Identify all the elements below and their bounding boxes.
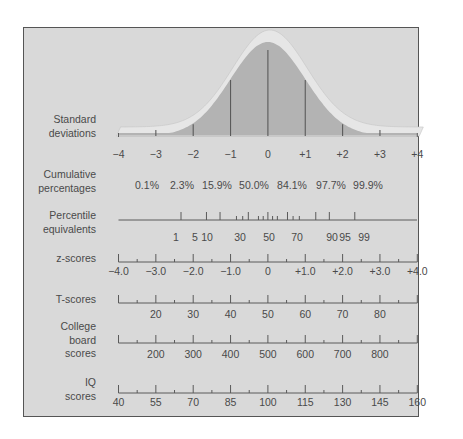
cumulative-value: 15.9%: [202, 179, 232, 191]
percentile-label: 50: [263, 231, 275, 243]
cumulative-value: 99.9%: [353, 179, 383, 191]
percentile-label: 5: [192, 231, 198, 243]
college-board-scores-tick-label: 700: [334, 348, 352, 360]
z-scores-label: z-scores: [56, 252, 96, 264]
t-scores-tick-label: 80: [374, 308, 386, 320]
t-scores-tick-label: 40: [225, 308, 237, 320]
cumulative-value: 50.0%: [239, 179, 269, 191]
college-board-scores-tick-label: 400: [222, 348, 240, 360]
iq-scores-tick-label: 40: [113, 396, 125, 408]
percentile-label: 1: [173, 231, 179, 243]
college-board-scores-label: Collegeboardscores: [60, 320, 96, 359]
college-board-scores-label-line: College: [60, 320, 96, 332]
t-scores-tick-label: 30: [187, 308, 199, 320]
t-scores-tick-label: 70: [337, 308, 349, 320]
percentile-label: 95: [339, 231, 351, 243]
cumulative-percentages-label: Cumulativepercentages: [38, 168, 96, 194]
sd-tick-label: +3: [374, 148, 386, 160]
iq-scores-label: IQscores: [65, 376, 96, 402]
t-scores-label-line: T-scores: [56, 293, 96, 305]
college-board-scores-label-line: board: [69, 334, 96, 346]
cumulative-value: 2.3%: [170, 179, 194, 191]
percentile-equivalents-label: Percentileequivalents: [43, 209, 96, 235]
t-scores-label: T-scores: [56, 293, 96, 305]
college-board-scores-tick-label: 500: [259, 348, 277, 360]
z-scores-tick-label: −3.0: [145, 265, 166, 277]
t-scores-tick-label: 60: [299, 308, 311, 320]
sd-tick-label: −2: [187, 148, 199, 160]
z-scores-tick-label: −4.0: [108, 265, 129, 277]
z-scores-tick-label: −1.0: [220, 265, 241, 277]
sd-tick-label: −1: [225, 148, 237, 160]
percentile-label: 99: [358, 231, 370, 243]
iq-scores-tick-label: 130: [334, 396, 352, 408]
percentile-equivalents-label-line: equivalents: [43, 223, 96, 235]
z-scores-tick-label: +3.0: [370, 265, 391, 277]
t-scores-tick-label: 20: [150, 308, 162, 320]
college-board-scores-tick-label: 600: [296, 348, 314, 360]
iq-scores-tick-label: 55: [150, 396, 162, 408]
iq-scores-tick-label: 115: [297, 396, 314, 408]
college-board-scores-tick-label: 300: [184, 348, 202, 360]
percentile-label: 10: [201, 231, 213, 243]
percentile-label: 90: [326, 231, 338, 243]
college-board-scores-tick-label: 800: [371, 348, 389, 360]
cumulative-value: 97.7%: [316, 179, 346, 191]
t-scores-tick-label: 50: [262, 308, 274, 320]
iq-scores-label-line: scores: [65, 390, 96, 402]
iq-scores-tick-label: 160: [409, 396, 427, 408]
iq-scores-tick-label: 100: [259, 396, 277, 408]
z-scores-tick-label: 0: [265, 265, 271, 277]
sd-tick-label: −4: [113, 148, 125, 160]
iq-scores-label-line: IQ: [85, 376, 96, 388]
z-scores-tick-label: −2.0: [183, 265, 204, 277]
sd-tick-label: +2: [337, 148, 349, 160]
cumulative-percentages-label-line: Cumulative: [43, 168, 96, 180]
z-scores-label-line: z-scores: [56, 252, 96, 264]
z-scores-tick-label: +2.0: [332, 265, 353, 277]
sd-tick-label: −3: [150, 148, 162, 160]
cumulative-value: 0.1%: [135, 179, 159, 191]
college-board-scores-tick-label: 200: [147, 348, 165, 360]
percentile-label: 30: [234, 231, 246, 243]
sd-tick-label: 0: [265, 148, 271, 160]
standard-deviations-label-line: deviations: [49, 127, 96, 139]
z-scores-tick-label: +4.0: [407, 265, 428, 277]
sd-tick-label: +4: [411, 148, 423, 160]
standard-deviations-label: Standarddeviations: [49, 113, 96, 139]
iq-scores-tick-label: 145: [371, 396, 389, 408]
sd-tick-label: +1: [299, 148, 311, 160]
iq-scores-tick-label: 85: [225, 396, 237, 408]
cumulative-value: 84.1%: [277, 179, 307, 191]
z-scores-tick-label: +1.0: [295, 265, 316, 277]
normal-curve-chart: Standarddeviations−4−3−2−10+1+2+3+4Cumul…: [0, 0, 463, 439]
percentile-equivalents-label-line: Percentile: [49, 209, 96, 221]
standard-deviations-label-line: Standard: [53, 113, 96, 125]
percentile-label: 70: [291, 231, 303, 243]
college-board-scores-label-line: scores: [65, 347, 96, 359]
iq-scores-tick-label: 70: [187, 396, 199, 408]
cumulative-percentages-label-line: percentages: [38, 182, 96, 194]
